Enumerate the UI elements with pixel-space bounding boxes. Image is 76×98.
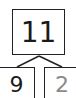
part-box-right: 2 bbox=[44, 67, 76, 98]
part-value-left: 9 bbox=[10, 72, 24, 97]
part-value-right: 2 bbox=[55, 72, 69, 97]
part-box-left: 9 bbox=[0, 67, 35, 98]
